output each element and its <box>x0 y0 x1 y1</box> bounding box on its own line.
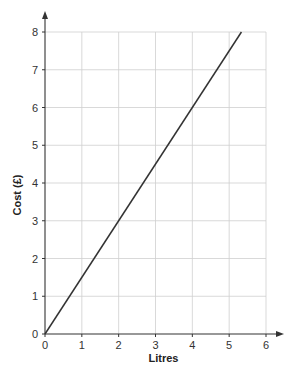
x-tick-label-3: 3 <box>152 339 158 351</box>
y-tick-label-0: 0 <box>32 328 38 340</box>
y-tick-label-5: 5 <box>32 139 38 151</box>
y-tick-label-3: 3 <box>32 215 38 227</box>
ticks: 0123456012345678 <box>32 26 269 351</box>
y-tick-label-7: 7 <box>32 64 38 76</box>
x-tick-label-1: 1 <box>79 339 85 351</box>
y-axis-title: Cost (£) <box>11 174 23 215</box>
x-tick-label-4: 4 <box>189 339 195 351</box>
y-tick-label-1: 1 <box>32 290 38 302</box>
y-tick-label-2: 2 <box>32 253 38 265</box>
axes <box>42 11 284 337</box>
x-tick-label-5: 5 <box>226 339 232 351</box>
y-tick-label-8: 8 <box>32 26 38 38</box>
y-axis-arrow-icon <box>42 11 48 19</box>
x-axis-arrow-icon <box>276 331 284 337</box>
x-axis-title: Litres <box>149 352 179 364</box>
line-chart: 0123456012345678 Litres Cost (£) <box>0 0 296 379</box>
y-tick-label-6: 6 <box>32 102 38 114</box>
x-tick-label-6: 6 <box>263 339 269 351</box>
x-tick-label-0: 0 <box>42 339 48 351</box>
y-tick-label-4: 4 <box>32 177 38 189</box>
grid <box>45 32 266 334</box>
x-tick-label-2: 2 <box>116 339 122 351</box>
